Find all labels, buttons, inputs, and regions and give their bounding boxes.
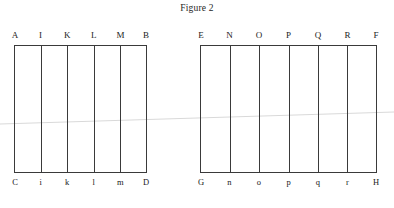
right-top-vertex-label-N: N — [226, 28, 233, 42]
right-bottom-vertex-label-n: n — [227, 175, 231, 189]
left-top-vertex-label-A: A — [12, 28, 19, 42]
right-top-vertex-label-R: R — [344, 28, 350, 42]
right-bottom-vertex-label-p: p — [286, 175, 290, 189]
left-bottom-vertex-label-m: m — [117, 175, 124, 189]
left-top-vertex-label-K: K — [64, 28, 71, 42]
left-top-vertex-label-B: B — [143, 28, 149, 42]
left-top-label-row: AIKLMB — [14, 28, 147, 42]
figure-canvas: Figure 2 AIKLMB CiklmD ENOPQRF GnopqrH — [0, 0, 394, 208]
left-bottom-vertex-label-C: C — [12, 175, 18, 189]
right-grid-divider — [230, 46, 231, 172]
right-bottom-vertex-label-H: H — [373, 175, 379, 189]
left-grid-divider — [94, 46, 95, 172]
left-bottom-vertex-label-k: k — [65, 175, 69, 189]
right-bottom-vertex-label-q: q — [316, 175, 320, 189]
left-top-vertex-label-M: M — [116, 28, 124, 42]
left-grid-divider — [120, 46, 121, 172]
left-bottom-vertex-label-i: i — [39, 175, 41, 189]
left-top-vertex-label-L: L — [91, 28, 97, 42]
right-top-vertex-label-Q: Q — [315, 28, 322, 42]
left-grid-box — [14, 45, 147, 173]
right-bottom-vertex-label-o: o — [257, 175, 261, 189]
left-grid-divider — [67, 46, 68, 172]
right-bottom-label-row: GnopqrH — [200, 175, 377, 189]
left-bottom-vertex-label-l: l — [93, 175, 95, 189]
right-top-vertex-label-E: E — [198, 28, 204, 42]
right-top-label-row: ENOPQRF — [200, 28, 377, 42]
right-top-vertex-label-P: P — [286, 28, 291, 42]
right-grid-divider — [347, 46, 348, 172]
right-bottom-vertex-label-G: G — [198, 175, 204, 189]
left-top-vertex-label-I: I — [39, 28, 42, 42]
left-bottom-label-row: CiklmD — [14, 175, 147, 189]
right-grid-divider — [318, 46, 319, 172]
figure-title: Figure 2 — [0, 3, 394, 13]
left-grid-divider — [41, 46, 42, 172]
left-bottom-vertex-label-D: D — [143, 175, 149, 189]
right-grid-divider — [289, 46, 290, 172]
right-top-vertex-label-F: F — [373, 28, 378, 42]
right-top-vertex-label-O: O — [256, 28, 263, 42]
right-bottom-vertex-label-r: r — [346, 175, 349, 189]
right-grid-box — [200, 45, 377, 173]
right-grid-divider — [259, 46, 260, 172]
